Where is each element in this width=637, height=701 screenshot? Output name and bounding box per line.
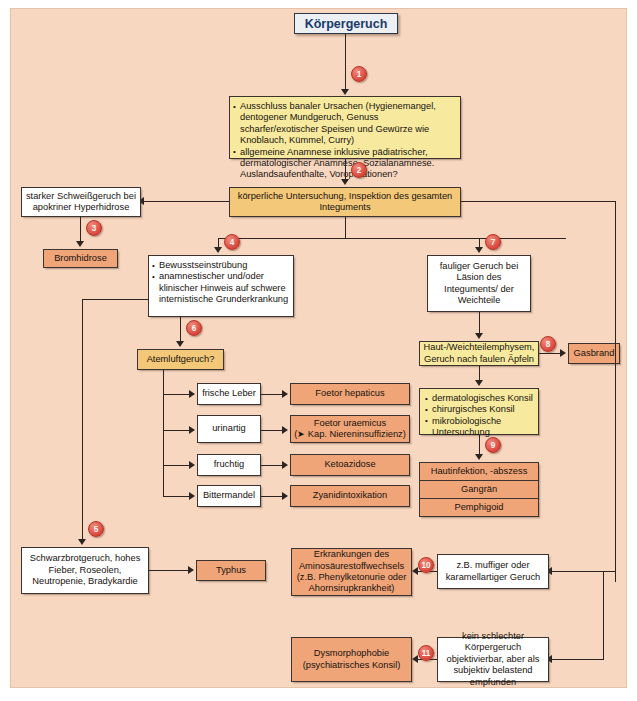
connector-right-bus-vertical bbox=[615, 201, 616, 582]
findings-bullet-1: anamnestischer und/oder klinischer Hinwe… bbox=[152, 271, 290, 305]
result-1-label: Foetor uraemicus (➤ Kap. Niereninsuffizi… bbox=[294, 418, 406, 441]
arrowhead-result-2 bbox=[282, 461, 288, 469]
arrowhead-exam bbox=[341, 179, 349, 185]
diagram-canvas: Körpergeruch 1 Ausschluss banaler Ursach… bbox=[10, 8, 627, 688]
consils-bullet-list: dermatologisches Konsil chirurgisches Ko… bbox=[425, 393, 535, 439]
node-result-2: Ketoazidose bbox=[290, 454, 410, 476]
node-result-3: Zyanidintoxikation bbox=[290, 485, 410, 507]
node-putrid-label: fauliger Geruch bei Läsion des Integumen… bbox=[431, 261, 527, 307]
arrowhead-results bbox=[475, 454, 483, 460]
arrowhead-result-1 bbox=[282, 426, 288, 434]
arrowhead-findings bbox=[214, 247, 222, 253]
result-item-0: Hautinfektion, -abszess bbox=[419, 462, 539, 481]
node-putrid-box: fauliger Geruch bei Läsion des Integumen… bbox=[427, 255, 531, 312]
node-cue-3: Bittermandel bbox=[197, 485, 261, 507]
node-dysmorphophobie-box: Dysmorphophobie (psychiatrisches Konsil) bbox=[291, 637, 412, 682]
node-typhus-label: Typhus bbox=[216, 565, 246, 576]
arrowhead-consils bbox=[475, 380, 483, 386]
arrowhead-putrid bbox=[475, 247, 483, 253]
connector-right-bus-to-subjective bbox=[549, 659, 604, 660]
node-breath-box: Atemluftgeruch? bbox=[137, 349, 224, 370]
node-result-0: Foetor hepaticus bbox=[290, 383, 410, 405]
history-bullet-0: Ausschluss banaler Ursachen (Hygienemang… bbox=[233, 101, 457, 147]
arrowhead-result-3 bbox=[282, 492, 288, 500]
arrowhead-dysmorphophobie bbox=[412, 655, 418, 663]
connector-exam-right-stub bbox=[461, 201, 616, 202]
arrowhead-bromhidrose bbox=[76, 241, 84, 247]
marker-3: 3 bbox=[86, 220, 102, 236]
arrowhead-result-0 bbox=[282, 390, 288, 398]
node-sweat-label: starker Schweißgeruch bei apokriner Hype… bbox=[25, 191, 137, 214]
findings-bullet-list: Bewusstseinstrübung anamnestischer und/o… bbox=[152, 260, 290, 306]
node-subjective-box: kein schlechter Körpergeruch objektivier… bbox=[437, 637, 549, 682]
node-aminoacid-label: Erkrankungen des Aminosäurestoffwechsels… bbox=[295, 549, 408, 595]
connector-right-bus-to-musty bbox=[549, 571, 616, 572]
marker-1: 1 bbox=[351, 66, 367, 82]
arrowhead-typhus-signs bbox=[78, 539, 86, 545]
result-0-label: Foetor hepaticus bbox=[315, 388, 384, 399]
marker-7: 7 bbox=[485, 234, 501, 250]
connector-breath-spine bbox=[163, 370, 164, 496]
connector-title-to-history bbox=[345, 34, 346, 91]
node-typhus-box: Typhus bbox=[196, 560, 266, 581]
connector-sweat-to-bromhidrose bbox=[80, 217, 81, 244]
marker-8: 8 bbox=[540, 336, 556, 352]
node-gasbrand-box: Gasbrand bbox=[568, 343, 620, 364]
consils-bullet-0: dermatologisches Konsil bbox=[425, 393, 535, 404]
cue-1-label: urinartig bbox=[212, 423, 246, 434]
arrowhead-breath bbox=[176, 341, 184, 347]
arrowhead-aminoacid bbox=[412, 567, 418, 575]
node-results-stack: Hautinfektion, -abszess Gangrän Pemphigo… bbox=[419, 462, 539, 517]
connector-branch-3 bbox=[163, 496, 192, 497]
node-bromhidrose-label: Bromhidrose bbox=[54, 253, 107, 264]
marker-4: 4 bbox=[224, 234, 240, 250]
connector-typhus-signs-to-typhus bbox=[149, 570, 191, 571]
consils-bullet-1: chirurgisches Konsil bbox=[425, 404, 535, 415]
connector-findings-to-breath bbox=[180, 317, 181, 344]
result-item-1: Gangrän bbox=[419, 480, 539, 499]
node-result-1: Foetor uraemicus (➤ Kap. Niereninsuffizi… bbox=[290, 415, 410, 443]
diagram-title: Körpergeruch bbox=[294, 13, 398, 34]
node-typhus-signs-label: Schwarzbrotgeruch, hohes Fieber, Roseole… bbox=[25, 553, 145, 587]
arrowhead-branch-1 bbox=[189, 426, 195, 434]
node-cue-1: urinartig bbox=[197, 415, 261, 443]
node-cue-0: frische Leber bbox=[197, 383, 261, 405]
connector-branch-0 bbox=[163, 394, 192, 395]
arrowhead-branch-0 bbox=[189, 390, 195, 398]
node-emphysema-label: Haut-/Weichteilemphysem, Geruch nach fau… bbox=[423, 342, 535, 365]
result-2-label: Ketoazidose bbox=[324, 459, 375, 470]
connector-findings-to-typhus-signs bbox=[82, 299, 83, 542]
node-musty-label: z.B. muffiger oder karamellartiger Geruc… bbox=[441, 560, 545, 583]
marker-6: 6 bbox=[186, 320, 202, 336]
flowchart-page: Körpergeruch 1 Ausschluss banaler Ursach… bbox=[0, 0, 637, 701]
node-subjective-label: kein schlechter Körpergeruch objektivier… bbox=[441, 631, 545, 688]
node-bromhidrose-box: Bromhidrose bbox=[43, 249, 118, 268]
node-history-box: Ausschluss banaler Ursachen (Hygienemang… bbox=[229, 96, 461, 159]
node-findings-box: Bewusstseinstrübung anamnestischer und/o… bbox=[148, 255, 294, 317]
node-exam-box: körperliche Untersuchung, Inspektion des… bbox=[229, 187, 461, 217]
node-emphysema-box: Haut-/Weichteilemphysem, Geruch nach fau… bbox=[419, 341, 539, 366]
node-aminoacid-box: Erkrankungen des Aminosäurestoffwechsels… bbox=[291, 548, 412, 596]
node-gasbrand-label: Gasbrand bbox=[574, 348, 615, 359]
connector-exam-bus bbox=[218, 238, 566, 239]
marker-10: 10 bbox=[418, 557, 434, 573]
node-dysmorphophobie-label: Dysmorphophobie (psychiatrisches Konsil) bbox=[295, 648, 408, 671]
arrowhead-branch-2 bbox=[189, 461, 195, 469]
node-sweat-box: starker Schweißgeruch bei apokriner Hype… bbox=[21, 187, 141, 217]
arrowhead-branch-3 bbox=[189, 492, 195, 500]
cue-3-label: Bittermandel bbox=[203, 490, 255, 501]
arrowhead-emphysema bbox=[475, 333, 483, 339]
connector-exam-to-sweat bbox=[141, 201, 229, 202]
node-musty-box: z.B. muffiger oder karamellartiger Geruc… bbox=[437, 554, 549, 589]
marker-2: 2 bbox=[351, 162, 367, 178]
node-exam-label: körperliche Untersuchung, Inspektion des… bbox=[233, 191, 457, 214]
node-cue-2: fruchtig bbox=[197, 454, 261, 476]
cue-0-label: frische Leber bbox=[202, 388, 256, 399]
marker-5: 5 bbox=[88, 521, 104, 537]
result-item-2: Pemphigoid bbox=[419, 498, 539, 517]
connector-right-bus-down bbox=[603, 571, 604, 660]
arrowhead-history bbox=[341, 89, 349, 95]
arrowhead-typhus bbox=[188, 566, 194, 574]
marker-9: 9 bbox=[485, 437, 501, 453]
findings-bullet-0: Bewusstseinstrübung bbox=[152, 260, 290, 271]
